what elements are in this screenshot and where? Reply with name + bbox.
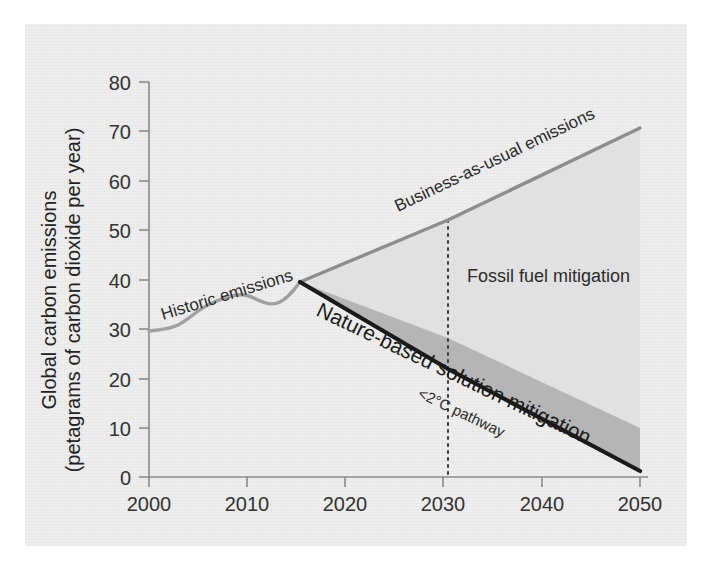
y-tick-label-50: 50	[109, 220, 131, 242]
fossil-fuel-mitigation-label: Fossil fuel mitigation	[467, 266, 630, 286]
x-tick-label-2030: 2030	[421, 493, 466, 515]
x-tick-label-2040: 2040	[520, 493, 565, 515]
x-tick-label-2000: 2000	[127, 493, 172, 515]
y-tick-label-20: 20	[109, 369, 131, 391]
emissions-chart: 80 70 60 50 40 30 20 10 0 2000 2010 2020…	[0, 0, 712, 569]
y-axis-title-line2: (petagrams of carbon dioxide per year)	[62, 128, 84, 473]
y-tick-label-10: 10	[109, 418, 131, 440]
figure-root: 80 70 60 50 40 30 20 10 0 2000 2010 2020…	[0, 0, 712, 569]
y-tick-label-40: 40	[109, 270, 131, 292]
y-tick-label-60: 60	[109, 171, 131, 193]
x-tick-label-2020: 2020	[323, 493, 368, 515]
historic-emissions-label: Historic emissions	[159, 266, 296, 324]
x-tick-label-2010: 2010	[225, 493, 270, 515]
y-axis-ticks	[139, 82, 149, 477]
x-tick-label-2050: 2050	[618, 493, 663, 515]
y-tick-label-80: 80	[109, 72, 131, 94]
y-axis-title-line1: Global carbon emissions	[38, 191, 60, 410]
y-tick-label-30: 30	[109, 319, 131, 341]
y-tick-label-70: 70	[109, 121, 131, 143]
x-axis-ticks	[149, 477, 640, 487]
y-tick-label-0: 0	[120, 467, 131, 489]
